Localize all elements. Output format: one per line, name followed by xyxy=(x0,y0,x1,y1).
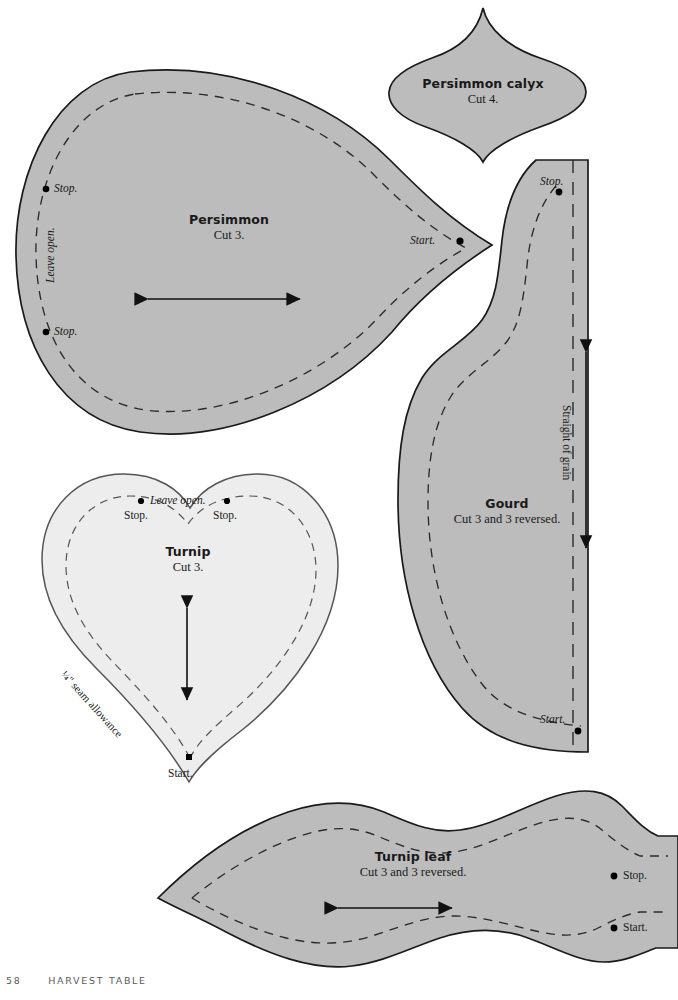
gourd-label-block: Gourd Cut 3 and 3 reversed. xyxy=(432,497,582,527)
gourd-straight-of-grain-label: Straight of grain xyxy=(559,405,573,480)
persimmon-stop-upper-label: Stop. xyxy=(54,182,77,196)
persimmon-label-block: Persimmon Cut 3. xyxy=(174,213,284,243)
gourd-stop-label: Stop. xyxy=(540,175,563,189)
turnip-label-block: Turnip Cut 3. xyxy=(138,545,238,575)
persimmon-stop-lower-label: Stop. xyxy=(54,325,77,339)
page-number: 58 xyxy=(6,975,22,986)
turnip-stop-left-label: Stop. xyxy=(124,509,148,523)
page-footer: 58 HARVEST TABLE xyxy=(6,975,147,986)
gourd-start-dot xyxy=(575,728,582,735)
persimmon-stop-lower-dot xyxy=(43,329,50,336)
persimmon-title: Persimmon xyxy=(174,213,284,228)
turnip-leaf-start-label: Start. xyxy=(623,921,648,935)
persimmon-calyx-cut: Cut 4. xyxy=(418,92,548,107)
gourd-cut: Cut 3 and 3 reversed. xyxy=(432,512,582,527)
turnip-stop-right-label: Stop. xyxy=(213,509,237,523)
gourd-title: Gourd xyxy=(432,497,582,512)
turnip-start-dot xyxy=(186,754,192,760)
turnip-leaf-start-dot xyxy=(611,925,618,932)
gourd-stop-dot xyxy=(556,189,563,196)
turnip-stop-left-dot xyxy=(138,498,144,504)
persimmon-stop-upper-dot xyxy=(43,186,50,193)
turnip-leaf-stop-label: Stop. xyxy=(623,869,647,883)
shape-turnip xyxy=(42,474,338,782)
pattern-sheet: Persimmon Cut 3. Stop. Stop. Start. Leav… xyxy=(0,0,678,1000)
persimmon-calyx-title: Persimmon calyx xyxy=(418,77,548,92)
persimmon-leave-open-label: Leave open. xyxy=(44,227,58,283)
turnip-leaf-cut: Cut 3 and 3 reversed. xyxy=(333,865,493,880)
turnip-leaf-title: Turnip leaf xyxy=(333,850,493,865)
turnip-leave-open-label: Leave open. xyxy=(150,494,206,508)
running-head: HARVEST TABLE xyxy=(48,975,147,986)
persimmon-cut: Cut 3. xyxy=(174,228,284,243)
turnip-stop-right-dot xyxy=(224,498,230,504)
turnip-start-label: Start. xyxy=(168,767,193,781)
turnip-leaf-label-block: Turnip leaf Cut 3 and 3 reversed. xyxy=(333,850,493,880)
turnip-leaf-stop-dot xyxy=(611,873,618,880)
turnip-cut-outline xyxy=(42,474,338,782)
gourd-start-label: Start. xyxy=(540,713,565,727)
persimmon-start-label: Start. xyxy=(410,234,435,248)
persimmon-start-dot xyxy=(456,237,463,244)
turnip-title: Turnip xyxy=(138,545,238,560)
persimmon-calyx-label-block: Persimmon calyx Cut 4. xyxy=(418,77,548,107)
turnip-cut: Cut 3. xyxy=(138,560,238,575)
